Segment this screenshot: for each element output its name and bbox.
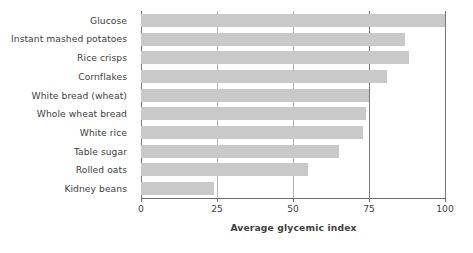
bar (141, 126, 363, 139)
x-tick-label: 25 (211, 204, 223, 213)
bar-row (141, 86, 445, 105)
bar (141, 14, 445, 27)
x-tick-75 (369, 198, 370, 202)
bar-row (141, 161, 445, 180)
bar-row (141, 179, 445, 198)
bar-row (141, 11, 445, 30)
category-label: Kidney beans (0, 179, 133, 198)
x-tick-label: 100 (436, 204, 454, 213)
category-label: White bread (wheat) (0, 86, 133, 105)
x-tick-label: 50 (287, 204, 299, 213)
bar-row (141, 142, 445, 161)
bar (141, 51, 409, 64)
bar (141, 182, 214, 195)
bar-row (141, 67, 445, 86)
x-tick-100 (445, 198, 446, 202)
gridline-100 (445, 11, 446, 198)
glycemic-index-bar-chart: Glucose Instant mashed potatoes Rice cri… (0, 0, 473, 253)
category-label: Instant mashed potatoes (0, 30, 133, 49)
category-label: Glucose (0, 11, 133, 30)
bar (141, 145, 339, 158)
category-label: Whole wheat bread (0, 105, 133, 124)
x-tick-0 (141, 198, 142, 202)
bar (141, 70, 387, 83)
category-label: Table sugar (0, 142, 133, 161)
x-tick-label: 0 (138, 204, 144, 213)
x-axis-title: Average glycemic index (141, 222, 446, 233)
category-label: Rolled oats (0, 161, 133, 180)
x-tick-label: 75 (363, 204, 375, 213)
bar-row (141, 48, 445, 67)
bar (141, 89, 369, 102)
bar-series (141, 11, 445, 198)
category-label: Cornflakes (0, 67, 133, 86)
category-axis-labels: Glucose Instant mashed potatoes Rice cri… (0, 11, 133, 198)
bar (141, 163, 308, 176)
bar (141, 33, 405, 46)
x-tick-25 (217, 198, 218, 202)
x-tick-50 (293, 198, 294, 202)
bar-row (141, 105, 445, 124)
category-label: Rice crisps (0, 48, 133, 67)
bar-row (141, 30, 445, 49)
plot-area (141, 11, 445, 198)
category-label: White rice (0, 123, 133, 142)
bar (141, 107, 366, 120)
bar-row (141, 123, 445, 142)
